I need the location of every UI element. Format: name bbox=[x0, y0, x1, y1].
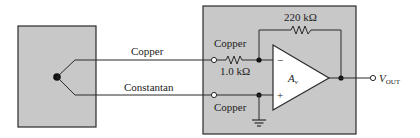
inverting-input-sign: − bbox=[277, 54, 283, 66]
label-wire-constantan: Constantan bbox=[124, 81, 174, 93]
noninverting-input-sign: + bbox=[277, 89, 283, 101]
node-inverting bbox=[256, 57, 261, 62]
label-terminal-top: Copper bbox=[214, 37, 247, 49]
thermocouple-circuit-diagram: Copper Constantan Copper Copper 1.0 kΩ 2… bbox=[0, 0, 420, 138]
label-input-resistor: 1.0 kΩ bbox=[220, 65, 250, 77]
output-terminal bbox=[370, 75, 375, 80]
output-label: VOUT bbox=[379, 72, 401, 86]
label-terminal-bottom: Copper bbox=[214, 101, 247, 113]
label-wire-copper: Copper bbox=[131, 45, 164, 57]
terminal-bottom bbox=[211, 92, 216, 97]
terminal-top bbox=[211, 57, 216, 62]
label-feedback-resistor: 220 kΩ bbox=[284, 11, 317, 23]
